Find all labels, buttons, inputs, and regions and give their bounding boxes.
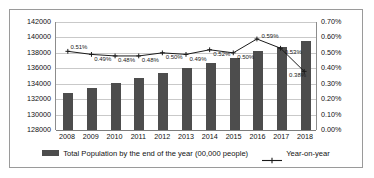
gridline: [56, 130, 316, 131]
chart-legend: Total Population by the end of the year …: [10, 143, 362, 163]
line-marker: [113, 54, 118, 59]
left-axis-tick: 136000: [11, 64, 51, 71]
x-axis-tick: 2018: [293, 133, 317, 141]
line-point-label: 0.59%: [261, 33, 278, 39]
legend-item-year-on-year: Year-on-year: [262, 149, 330, 158]
left-axis-tick: 134000: [11, 80, 51, 87]
x-axis-tick: 2008: [55, 133, 79, 141]
left-axis-tick: 138000: [11, 49, 51, 56]
line-point-label: 0.48%: [142, 57, 159, 63]
left-axis-tick: 132000: [11, 95, 51, 102]
line-point-label: 0.52%: [213, 51, 230, 57]
line-marker: [231, 50, 236, 55]
line-point-label: 0.53%: [285, 49, 302, 55]
right-axis-tick: 0.40%: [321, 64, 363, 71]
x-axis-tick: 2009: [79, 133, 103, 141]
right-axis-tick: 0.10%: [321, 111, 363, 118]
line-point-label: 0.49%: [190, 56, 207, 62]
right-axis-tick: 0.70%: [321, 18, 363, 25]
x-axis-tick: 2011: [126, 133, 150, 141]
line-marker-icon: [262, 150, 282, 157]
legend-label-year-on-year: Year-on-year: [286, 149, 330, 158]
right-axis-tick: 0.00%: [321, 126, 363, 133]
x-axis-tick: 2016: [246, 133, 270, 141]
line-marker: [207, 47, 212, 52]
left-axis-tick: 130000: [11, 111, 51, 118]
left-axis-tick: 142000: [11, 18, 51, 25]
line-marker: [184, 52, 189, 57]
line-marker: [136, 54, 141, 59]
x-axis-tick: 2010: [103, 133, 127, 141]
legend-item-total-population: Total Population by the end of the year …: [42, 149, 248, 158]
x-axis-tick: 2014: [198, 133, 222, 141]
x-axis-tick: 2013: [174, 133, 198, 141]
chart-container: 1280001300001320001340001360001380001400…: [9, 9, 363, 168]
line-marker: [160, 50, 165, 55]
line-marker: [255, 37, 260, 42]
line-point-label: 0.38%: [289, 72, 306, 78]
right-axis-tick: 0.50%: [321, 49, 363, 56]
legend-label-total-population: Total Population by the end of the year …: [63, 149, 248, 158]
x-axis-tick: 2015: [222, 133, 246, 141]
x-axis-tick: 2017: [269, 133, 293, 141]
right-axis-tick: 0.30%: [321, 80, 363, 87]
line-point-label: 0.50%: [166, 54, 183, 60]
line-marker: [89, 52, 94, 57]
right-axis-tick: 0.20%: [321, 95, 363, 102]
line-point-label: 0.49%: [94, 56, 111, 62]
x-axis-tick: 2012: [150, 133, 174, 141]
line-point-label: 0.50%: [237, 54, 254, 60]
line-point-label: 0.48%: [118, 57, 135, 63]
left-axis-tick: 140000: [11, 33, 51, 40]
line-point-label: 0.51%: [70, 44, 87, 50]
right-axis-tick: 0.60%: [321, 33, 363, 40]
bar-swatch-icon: [42, 150, 59, 156]
plot-area: 0.51%0.49%0.48%0.48%0.50%0.49%0.52%0.50%…: [55, 22, 317, 130]
left-axis-tick: 128000: [11, 126, 51, 133]
